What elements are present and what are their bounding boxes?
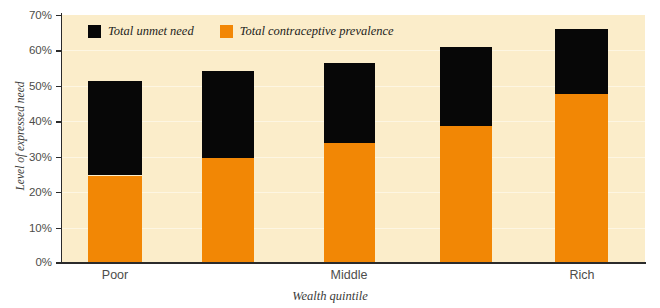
x-tick-label-middle: Middle bbox=[331, 268, 368, 282]
legend-label-unmet-need: Total unmet need bbox=[108, 24, 194, 39]
y-tick-mark-30 bbox=[56, 157, 61, 158]
bar-segment-unmet-need bbox=[555, 29, 608, 95]
chart-figure: 70% 60% 50% 40% 30% 20% 10% 0% Poor Midd… bbox=[0, 0, 660, 308]
chart-legend: Total unmet need Total contraceptive pre… bbox=[88, 24, 394, 39]
bar-segment-contraceptive-prevalence bbox=[202, 158, 254, 263]
y-tick-label-60: 60% bbox=[0, 44, 52, 56]
bar-segment-contraceptive-prevalence bbox=[555, 94, 608, 263]
x-axis-line bbox=[61, 262, 646, 264]
x-tick-label-rich: Rich bbox=[569, 268, 594, 282]
y-tick-mark-20 bbox=[56, 192, 61, 193]
bar-segment-contraceptive-prevalence bbox=[324, 143, 375, 263]
y-tick-label-10: 10% bbox=[0, 222, 52, 234]
bar-segment-contraceptive-prevalence bbox=[88, 176, 142, 264]
bar-quintile-4 bbox=[440, 47, 492, 263]
legend-item-unmet-need: Total unmet need bbox=[88, 24, 194, 39]
bar-segment-contraceptive-prevalence bbox=[440, 126, 492, 263]
y-tick-label-40: 40% bbox=[0, 115, 52, 127]
x-axis-title: Wealth quintile bbox=[0, 289, 660, 304]
x-tick-label-poor: Poor bbox=[102, 268, 128, 282]
y-tick-label-30: 30% bbox=[0, 151, 52, 163]
y-tick-mark-60 bbox=[56, 50, 61, 51]
plot-area bbox=[62, 15, 645, 263]
bar-quintile-2 bbox=[202, 71, 254, 263]
legend-label-contraceptive-prevalence: Total contraceptive prevalence bbox=[240, 24, 394, 39]
bar-middle bbox=[324, 63, 375, 263]
bar-poor bbox=[88, 81, 142, 264]
y-tick-mark-70 bbox=[56, 15, 61, 16]
y-tick-mark-40 bbox=[56, 121, 61, 122]
y-tick-label-50: 50% bbox=[0, 80, 52, 92]
bar-segment-unmet-need bbox=[88, 81, 142, 176]
bar-segment-unmet-need bbox=[440, 47, 492, 126]
bar-segment-unmet-need bbox=[202, 71, 254, 158]
legend-item-contraceptive-prevalence: Total contraceptive prevalence bbox=[220, 24, 394, 39]
y-tick-mark-50 bbox=[56, 86, 61, 87]
bar-segment-unmet-need bbox=[324, 63, 375, 143]
y-tick-label-20: 20% bbox=[0, 186, 52, 198]
y-axis-title: Level of expressed need bbox=[14, 56, 26, 216]
y-tick-label-70: 70% bbox=[0, 9, 52, 21]
y-axis-line bbox=[61, 13, 62, 264]
y-tick-label-0: 0% bbox=[0, 256, 52, 268]
bar-rich bbox=[555, 29, 608, 264]
y-tick-mark-0 bbox=[56, 262, 61, 263]
legend-swatch-contraceptive-prevalence-icon bbox=[220, 25, 233, 38]
y-tick-mark-10 bbox=[56, 228, 61, 229]
legend-swatch-unmet-need-icon bbox=[88, 25, 101, 38]
